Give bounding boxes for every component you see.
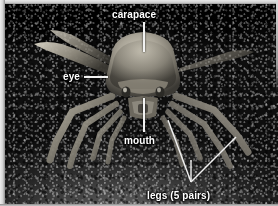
frame-edge-top — [0, 0, 278, 4]
annotation-layer: carapace eye mouth legs (5 pairs) — [0, 0, 278, 206]
crab-anatomy-figure: carapace eye mouth legs (5 pairs) — [0, 0, 278, 206]
frame-edge-bottom — [0, 204, 278, 206]
label-legs: legs (5 pairs) — [147, 190, 210, 201]
frame-edge-right — [276, 0, 278, 92]
legs-leader-lines — [0, 0, 278, 206]
frame-edge-left — [0, 0, 5, 206]
